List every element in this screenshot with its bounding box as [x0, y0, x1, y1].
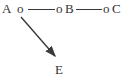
node-marker-c-icon: o	[103, 2, 110, 15]
node-label-b: B	[65, 2, 74, 15]
node-label-a: A	[2, 2, 11, 15]
edge-arrow-a-e	[21, 17, 55, 56]
node-label-e: E	[55, 63, 63, 76]
node-label-c: C	[112, 2, 121, 15]
node-marker-b-icon: o	[56, 2, 63, 15]
node-marker-a-icon: o	[17, 2, 24, 15]
diagram-canvas: A o o B o C E	[0, 0, 128, 81]
